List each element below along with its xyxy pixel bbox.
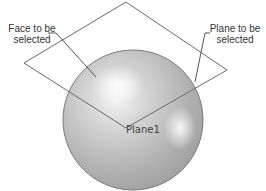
plane-name-label: Plane1 (126, 124, 160, 135)
plane-callout-line2: selected (205, 34, 265, 45)
face-callout-line1: Face to be (0, 23, 64, 34)
face-callout-line2: selected (0, 34, 64, 45)
plane-callout-label: Plane to be selected (205, 23, 265, 45)
plane-callout-line1: Plane to be (205, 23, 265, 34)
diagram-canvas: Face to be selected Plane to be selected… (0, 0, 266, 191)
face-callout-label: Face to be selected (0, 23, 64, 45)
sphere[interactable] (63, 50, 203, 190)
